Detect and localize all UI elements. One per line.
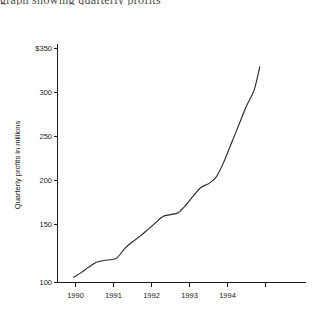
y-tick-label-200: 200: [39, 176, 52, 185]
data-series-line: [74, 67, 260, 278]
x-tick-label-1994: 1994: [219, 291, 236, 300]
x-tick-label-1991: 1991: [105, 291, 122, 300]
y-tick-label-250: 250: [39, 132, 52, 141]
y-tick-label-100: 100: [39, 278, 52, 287]
y-tick-label-300: 300: [39, 88, 52, 97]
x-tick-label-1993: 1993: [181, 291, 198, 300]
y-tick-label-350: $350: [35, 44, 52, 53]
y-tick-label-150: 150: [39, 220, 52, 229]
chart-figure: graph showing quarterly profits Quarterl…: [0, 0, 317, 323]
clipped-header-text: graph showing quarterly profits: [0, 0, 317, 5]
y-axis-title: Quarterly profits in millions: [13, 121, 22, 210]
x-tick-label-1992: 1992: [143, 291, 160, 300]
x-tick-label-1990: 1990: [67, 291, 84, 300]
line-chart-canvas: Quarterly profits in millions $350 300 2…: [0, 0, 317, 323]
